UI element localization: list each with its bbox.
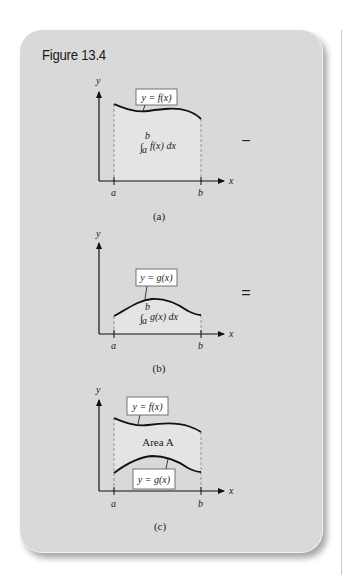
label-leader [145,286,147,299]
minus-operator: − [241,132,250,149]
curve-label: y = f(x) [140,92,172,104]
x-axis-label: x [228,328,234,339]
curve-label-bottom: y = g(x) [137,474,171,486]
diagram-b: y x a b y = g(x) ∫ b a g(x) dx (b) [95,228,234,375]
curve-label: y = g(x) [139,272,173,284]
tick-label-a: a [111,340,116,351]
area-label: Area A [142,436,174,448]
integral-expression: g(x) dx [150,311,179,323]
caption-b: (b) [153,362,166,375]
label-leader-top [138,415,140,424]
y-axis-label: y [95,228,101,239]
label-leader-bottom [166,459,168,469]
diagram-a: y x a b y = f(x) ∫ b a f(x) dx (a) [95,75,234,223]
x-axis-label: x [228,175,234,186]
x-axis-label: x [228,485,234,496]
tick-label-a: a [111,187,116,198]
integral-expression: f(x) dx [150,140,176,152]
y-axis-label: y [95,75,101,86]
caption-c: (c) [154,520,167,533]
tick-label-b: b [198,187,203,198]
caption-a: (a) [153,210,166,223]
tick-label-a: a [111,498,116,509]
curve-label-top: y = f(x) [131,401,163,413]
integral-lower-limit: a [142,315,147,326]
tick-label-b: b [198,340,203,351]
equals-operator: = [241,284,250,301]
integral-lower-limit: a [142,144,147,155]
label-leader [143,105,145,111]
y-axis-label: y [95,384,101,395]
figure-diagrams: y x a b y = f(x) ∫ b a f(x) dx (a) − y x… [0,0,344,575]
diagram-c: y x a b y = f(x) y = g(x) Area A (c) [95,384,234,533]
tick-label-b: b [198,498,203,509]
